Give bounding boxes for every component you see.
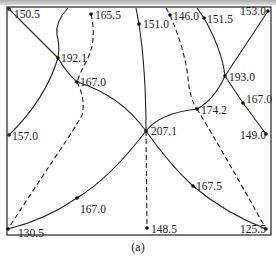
node-dot	[195, 107, 199, 111]
node-dot	[223, 74, 227, 78]
node-dot	[7, 133, 11, 137]
node-value-label: 167.0	[246, 93, 272, 105]
node-dot	[202, 16, 206, 20]
node-dot	[6, 227, 10, 231]
node-value-label: 157.0	[12, 130, 38, 142]
node-value-label: 146.0	[173, 10, 199, 22]
network-diagram: 150.5165.5151.0146.0151.5153.0192.1167.0…	[0, 0, 276, 260]
node-value-label: 193.0	[229, 71, 255, 83]
node-value-label: 148.5	[151, 223, 177, 235]
edge-192.1-top	[57, 8, 68, 58]
node-dot	[89, 12, 93, 16]
edge-165.5-167.0-dashed	[77, 14, 93, 82]
node-value-label: 192.1	[61, 52, 87, 64]
edge-192.1-157.0	[9, 58, 58, 135]
node-value-label: 174.2	[201, 104, 227, 116]
node-dot	[145, 226, 149, 230]
node-dot	[266, 9, 270, 13]
node-dot	[144, 129, 148, 133]
edge-167.0-130.5-dashed	[8, 82, 83, 229]
node-dot	[191, 184, 195, 188]
node-value-label: 153.0	[240, 5, 266, 17]
edge-207.1-148.5-dashed	[146, 131, 147, 228]
edge-207.1-130.5	[8, 131, 146, 229]
node-dot	[56, 56, 60, 60]
edge-193.0-149.0	[225, 76, 266, 134]
node-value-label: 167.5	[196, 180, 222, 192]
node-value-label: 207.1	[151, 125, 177, 137]
node-dot	[137, 22, 141, 26]
dashed-edges	[8, 8, 266, 229]
node-dot	[7, 7, 11, 11]
node-value-label: 150.5	[14, 8, 40, 20]
node-dot	[241, 101, 245, 105]
solid-edges	[8, 8, 268, 229]
figure-label: (a)	[0, 240, 276, 255]
node-value-label: 151.5	[207, 13, 233, 25]
node-value-label: 167.0	[80, 203, 106, 215]
node-dot	[75, 196, 79, 200]
node-value-label: 165.5	[95, 9, 121, 21]
edge-174.2-125.5-dashed	[197, 109, 266, 229]
node-value-label: 125.5	[240, 223, 266, 235]
node-dot	[75, 80, 79, 84]
edge-167.0-207.1	[77, 82, 146, 131]
node-value-label: 130.5	[18, 227, 44, 239]
node-value-label: 149.0	[240, 129, 266, 141]
node-value-label: 167.0	[80, 76, 106, 88]
node-value-label: 151.0	[143, 18, 169, 30]
node-dot	[168, 13, 172, 17]
diagram-frame	[7, 7, 271, 235]
edge-146.0-174.2-dashed	[166, 8, 197, 109]
